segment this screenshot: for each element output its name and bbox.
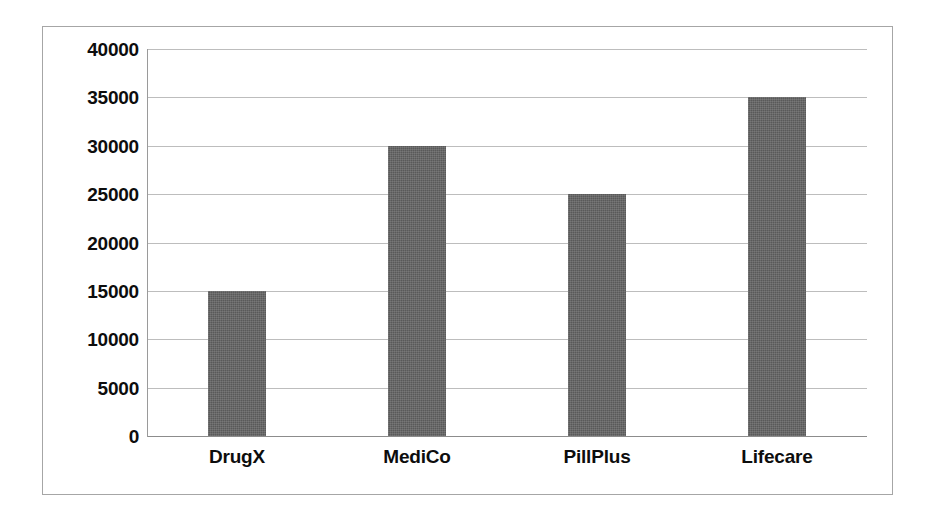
y-axis-tick-label: 5000 [47,379,139,398]
bar[interactable] [568,194,626,436]
bar[interactable] [208,291,266,436]
x-axis-category-label: MediCo [327,447,507,466]
y-axis-tick-label: 25000 [47,185,139,204]
y-axis-tick-labels: 4000035000300002500020000150001000050000 [43,27,139,496]
y-axis-tick-label: 35000 [47,88,139,107]
y-axis-tick-label: 10000 [47,330,139,349]
y-axis-tick-label: 15000 [47,282,139,301]
chart-frame: 4000035000300002500020000150001000050000… [42,26,893,495]
x-axis-category-label: Lifecare [687,447,867,466]
y-axis-tick-label: 30000 [47,137,139,156]
bar[interactable] [388,146,446,436]
axis-baseline [147,436,867,437]
y-axis-tick-label: 20000 [47,234,139,253]
x-axis-category-label: DrugX [147,447,327,466]
bar[interactable] [748,97,806,436]
x-axis-category-label: PillPlus [507,447,687,466]
y-axis-tick-label: 0 [47,427,139,446]
plot-area [147,49,867,436]
y-axis-tick-label: 40000 [47,40,139,59]
